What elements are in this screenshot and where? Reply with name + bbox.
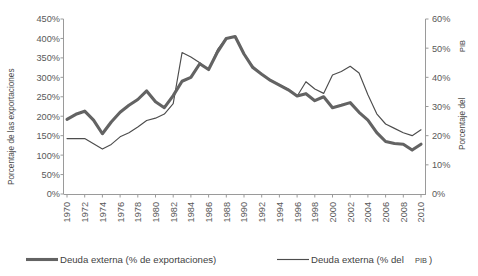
y-tick-left-250: 250% bbox=[37, 92, 61, 102]
x-tick-label-1978: 1978 bbox=[133, 202, 143, 222]
x-tick-label-2006: 2006 bbox=[381, 202, 391, 222]
x-tick-label-1988: 1988 bbox=[222, 202, 232, 222]
x-tick-label-1996: 1996 bbox=[293, 202, 303, 222]
y-tick-left-200: 200% bbox=[37, 112, 61, 122]
y-axis-right-label-pib: PIB bbox=[458, 40, 467, 52]
legend-label-gdp-pib: PIB bbox=[415, 256, 427, 265]
y-tick-left-100: 100% bbox=[37, 151, 61, 161]
debt-chart: Porcentaje de las exportaciones Porcenta… bbox=[0, 0, 478, 276]
x-tick-label-2000: 2000 bbox=[328, 202, 338, 222]
y-axis-right-label: Porcentaje del bbox=[458, 97, 467, 150]
x-tick-label-1972: 1972 bbox=[80, 202, 90, 222]
x-tick-label-1998: 1998 bbox=[310, 202, 320, 222]
y-tick-left-50: 50% bbox=[42, 170, 60, 180]
y-tick-right-20: 20% bbox=[432, 131, 450, 141]
x-tick-label-2004: 2004 bbox=[363, 202, 373, 222]
y-axis-left-label: Porcentaje de las exportaciones bbox=[7, 68, 16, 185]
x-tick-label-1992: 1992 bbox=[257, 202, 267, 222]
x-tick-label-1984: 1984 bbox=[186, 202, 196, 222]
x-tick-label-1980: 1980 bbox=[151, 202, 161, 222]
y-tick-right-0: 0% bbox=[432, 189, 445, 199]
chart-container: Porcentaje de las exportaciones Porcenta… bbox=[0, 0, 478, 276]
y-tick-right-10: 10% bbox=[432, 160, 450, 170]
x-tick-label-2010: 2010 bbox=[416, 202, 426, 222]
x-tick-label-1990: 1990 bbox=[239, 202, 249, 222]
x-tick-label-1986: 1986 bbox=[204, 202, 214, 222]
y-tick-left-0: 0% bbox=[47, 189, 60, 199]
x-tick-label-1970: 1970 bbox=[62, 202, 72, 222]
legend-label-exports: Deuda externa (% de exportaciones) bbox=[60, 254, 216, 265]
y-tick-left-450: 450% bbox=[37, 14, 61, 24]
y-tick-right-50: 50% bbox=[432, 44, 450, 54]
x-tick-label-1994: 1994 bbox=[275, 202, 285, 222]
y-tick-right-60: 60% bbox=[432, 14, 450, 24]
y-tick-left-300: 300% bbox=[37, 73, 61, 83]
y-tick-right-40: 40% bbox=[432, 73, 450, 83]
legend-label-gdp: Deuda externa (% del bbox=[311, 254, 404, 265]
y-tick-left-400: 400% bbox=[37, 34, 61, 44]
x-tick-label-2002: 2002 bbox=[346, 202, 356, 222]
x-tick-label-1976: 1976 bbox=[116, 202, 126, 222]
x-tick-label-1974: 1974 bbox=[98, 202, 108, 222]
y-tick-right-30: 30% bbox=[432, 102, 450, 112]
x-tick-label-2008: 2008 bbox=[399, 202, 409, 222]
x-tick-label-1982: 1982 bbox=[169, 202, 179, 222]
y-tick-left-350: 350% bbox=[37, 53, 61, 63]
y-tick-left-150: 150% bbox=[37, 131, 61, 141]
legend-label-gdp-tail: ) bbox=[429, 254, 432, 265]
